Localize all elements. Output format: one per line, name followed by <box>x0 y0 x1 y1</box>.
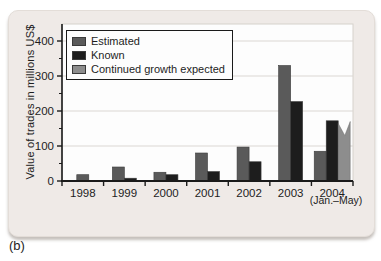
legend-item-1: Known <box>72 48 225 62</box>
y-tick-label-200: 200 <box>35 105 54 117</box>
legend-swatch-continued <box>72 65 86 74</box>
bar-estimated-2002 <box>237 147 249 181</box>
x-label-2000: 2000 <box>153 187 179 199</box>
y-tick-label-400: 400 <box>35 35 54 47</box>
y-tick-label-100: 100 <box>35 140 54 152</box>
x-label-1999: 1999 <box>112 187 138 199</box>
legend-swatch-estimated <box>72 37 86 46</box>
y-axis-title: Value of trades in millions US$ <box>24 17 36 187</box>
legend-item-0: Estimated <box>72 34 225 48</box>
y-tick-label-300: 300 <box>35 70 54 82</box>
legend-label: Continued growth expected <box>91 62 225 76</box>
x-label-2001: 2001 <box>195 187 221 199</box>
bar-estimated-2003 <box>279 66 291 182</box>
bar-estimated-2004 <box>314 151 326 181</box>
x-label-1998: 1998 <box>70 187 96 199</box>
legend-item-2: Continued growth expected <box>72 62 225 76</box>
x-label-2002: 2002 <box>236 187 262 199</box>
bar-estimated-2001 <box>196 153 208 181</box>
legend: EstimatedKnownContinued growth expected <box>66 30 233 80</box>
y-tick-label-0: 0 <box>48 175 54 187</box>
legend-label: Known <box>91 48 125 62</box>
bar-known-2003 <box>291 102 303 181</box>
bar-estimated-2000 <box>154 172 166 181</box>
bar-known-2002 <box>249 162 261 181</box>
figure-label: (b) <box>9 238 25 253</box>
bar-known-2004 <box>326 121 338 181</box>
bar-known-2001 <box>208 172 220 181</box>
legend-label: Estimated <box>91 34 140 48</box>
x-axis-note: (Jan.–May) <box>310 194 363 206</box>
legend-swatch-known <box>72 51 86 60</box>
x-label-2003: 2003 <box>278 187 304 199</box>
bar-estimated-1999 <box>112 167 124 181</box>
